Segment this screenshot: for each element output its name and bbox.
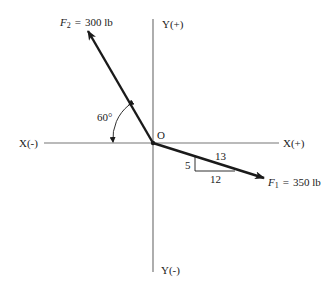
y-negative-label: Y(-): [161, 264, 180, 277]
y-positive-label: Y(+): [162, 18, 184, 31]
slope-run-label: 12: [210, 173, 221, 185]
f1-equals: =: [283, 176, 289, 188]
f2-equals: =: [75, 16, 81, 28]
x-positive-label: X(+): [283, 137, 305, 150]
slope-rise-label: 5: [185, 159, 191, 171]
f2-vector-arrow: [88, 31, 153, 143]
slope-hypotenuse-label: 13: [215, 150, 227, 162]
f1-label: F1=350 lb: [267, 176, 321, 190]
f2-label: F2=300 lb: [59, 16, 113, 30]
f2-subscript: 2: [67, 21, 71, 30]
angle-label: 60°: [97, 111, 112, 123]
origin-label: O: [157, 129, 165, 141]
force-diagram: X(-) X(+) Y(+) Y(-) O F2=300 lb 60° F1=3…: [0, 0, 333, 291]
angle-arc-60: [113, 105, 129, 142]
f2-magnitude: 300 lb: [85, 16, 113, 28]
x-negative-label: X(-): [19, 137, 38, 150]
f1-subscript: 1: [275, 181, 279, 190]
f1-magnitude: 350 lb: [293, 176, 321, 188]
f1-vector-arrow: [153, 143, 264, 178]
